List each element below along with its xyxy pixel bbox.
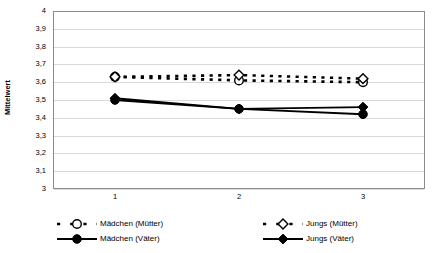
legend-swatch [262, 233, 304, 245]
data-point-marker [234, 104, 244, 114]
x-tick-label: 3 [348, 192, 378, 201]
series-4 [110, 93, 368, 113]
y-tick-label: 3,8 [2, 43, 46, 51]
legend-label: Mädchen (Väter) [100, 234, 160, 243]
gridline [54, 189, 424, 190]
legend-marker [73, 220, 82, 229]
legend-swatch [262, 218, 304, 230]
y-tick-label: 3,6 [2, 78, 46, 86]
legend-label: Mädchen (Mütter) [100, 219, 163, 228]
y-tick-label: 4 [2, 7, 46, 15]
y-tick-label: 3,2 [2, 149, 46, 157]
data-point-marker [358, 102, 368, 112]
legend-marker [278, 234, 288, 244]
legend-marker [278, 219, 288, 229]
chart-container: Mittelwert 43,93,83,73,63,53,43,33,23,13… [0, 0, 446, 253]
legend-marker [73, 235, 82, 244]
chart-legend: Mädchen (Mütter)Jungs (Mütter)Mädchen (V… [0, 218, 446, 253]
y-tick-label: 3,5 [2, 96, 46, 104]
x-tick-label: 1 [100, 192, 130, 201]
y-tick-label: 3,3 [2, 132, 46, 140]
legend-label: Jungs (Väter) [306, 234, 354, 243]
y-tick-label: 3,7 [2, 60, 46, 68]
legend-swatch [56, 218, 98, 230]
y-tick-label: 3,9 [2, 25, 46, 33]
y-tick-label: 3,4 [2, 114, 46, 122]
x-tick-label: 2 [224, 192, 254, 201]
legend-label: Jungs (Mütter) [306, 219, 358, 228]
series-layer [53, 11, 425, 189]
chart-title-cropped [95, 0, 295, 2]
legend-swatch [56, 233, 98, 245]
y-tick-label: 3 [2, 185, 46, 193]
y-tick-label: 3,1 [2, 167, 46, 175]
